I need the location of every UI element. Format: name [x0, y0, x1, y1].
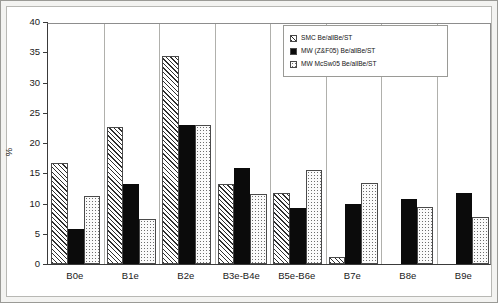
y-tick-label: 20 [29, 138, 40, 148]
bar [329, 257, 345, 264]
x-tick-label: B7e [325, 271, 381, 281]
figure-frame: % 0510152025303540 B0eB1eB2eB3e-B4eB5e-B… [0, 0, 498, 303]
y-tick-label: 25 [29, 108, 40, 118]
legend-swatch [290, 35, 297, 42]
bar [417, 207, 433, 264]
x-tick-label: B0e [47, 271, 103, 281]
bar [273, 193, 289, 264]
bar [68, 229, 84, 264]
y-tick-label: 35 [29, 48, 40, 58]
chart-legend: SMC Be/allBe/STMW (Z&F05) Be/allBe/STMW … [283, 25, 448, 77]
y-tick-label: 0 [35, 259, 40, 269]
x-tick-label: B2e [158, 271, 214, 281]
bar-group [104, 24, 160, 264]
bar [123, 184, 139, 264]
bar [290, 208, 306, 264]
legend-item: SMC Be/allBe/ST [290, 32, 441, 44]
legend-label: SMC Be/allBe/ST [301, 35, 352, 42]
bar-group [159, 24, 215, 264]
bar [107, 127, 123, 264]
bar-group [48, 24, 104, 264]
legend-swatch [290, 48, 297, 55]
bar [234, 168, 250, 264]
bar [456, 193, 472, 264]
legend-item: MW McSw05 Be/allBe/ST [290, 58, 441, 70]
bar [51, 163, 67, 264]
bar [361, 183, 377, 264]
bar [84, 196, 100, 264]
x-tick-label: B3e-B4e [214, 271, 270, 281]
y-tick-mark [43, 22, 48, 23]
bar [218, 184, 234, 264]
y-axis-title: % [4, 147, 14, 155]
legend-swatch [290, 61, 297, 68]
bar [162, 56, 178, 264]
y-tick-label: 10 [29, 199, 40, 209]
y-tick-label: 30 [29, 78, 40, 88]
bar [401, 199, 417, 264]
bar [345, 204, 361, 264]
y-tick-label: 5 [35, 229, 40, 239]
legend-item: MW (Z&F05) Be/allBe/ST [290, 45, 441, 57]
y-tick-mark [43, 264, 48, 265]
legend-label: MW (Z&F05) Be/allBe/ST [301, 48, 375, 55]
bar [195, 125, 211, 264]
bar [472, 217, 488, 264]
legend-label: MW McSw05 Be/allBe/ST [301, 61, 376, 68]
x-tick-label: B8e [380, 271, 436, 281]
y-tick-label: 40 [29, 17, 40, 27]
y-tick-label: 15 [29, 169, 40, 179]
bar [306, 170, 322, 264]
x-tick-label: B9e [436, 271, 492, 281]
bar [139, 219, 155, 264]
x-tick-label: B1e [103, 271, 159, 281]
chart-card: % 0510152025303540 B0eB1eB2eB3e-B4eB5e-B… [6, 6, 492, 297]
bar-group [215, 24, 271, 264]
bar [250, 194, 266, 264]
bar [179, 125, 195, 264]
x-tick-label: B5e-B6e [269, 271, 325, 281]
